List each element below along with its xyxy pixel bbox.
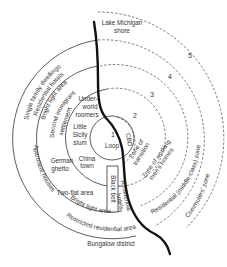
black-belt-label: Black belt (110, 175, 117, 203)
underworld-label-2: world (81, 103, 98, 110)
chinatown-label-2: town (80, 162, 94, 169)
zone-number-4: 4 (168, 73, 172, 80)
restricted-residential-label: Restricted residential area (65, 211, 137, 232)
diagram-canvas: Lake Michigan shore 1 2 3 4 5 Loop CBD U… (0, 0, 227, 267)
zone-number-3: 3 (150, 91, 154, 98)
chinatown-label-1: China (79, 155, 96, 162)
underworld-label-1: Under- (78, 95, 97, 102)
zone-number-2: 2 (133, 112, 137, 119)
zone-number-5: 5 (188, 52, 192, 59)
shore-label-line2: shore (114, 27, 130, 34)
cbd-label: CBD (125, 132, 134, 147)
loop-label: Loop (105, 142, 120, 150)
bungalow-district-label: Bungalow district (87, 240, 135, 248)
concentric-zone-diagram: Lake Michigan shore 1 2 3 4 5 Loop CBD U… (0, 0, 227, 267)
little-sicily-label-2: Sicily (73, 131, 89, 139)
underworld-label-3: roomers (75, 111, 98, 118)
german-ghetto-label-2: ghetto (51, 165, 69, 173)
german-ghetto-label-1: German (51, 157, 74, 164)
shore-label-line1: Lake Michigan (102, 19, 143, 27)
zone-number-1: 1 (111, 131, 115, 138)
little-sicily-label-1: Little (73, 123, 87, 130)
little-sicily-label-3: slum (73, 139, 86, 146)
